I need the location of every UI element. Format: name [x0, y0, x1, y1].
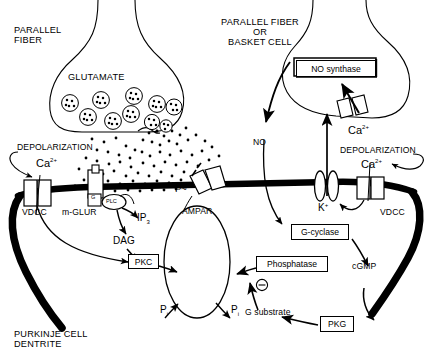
label-glutamate: GLUTAMATE [68, 73, 125, 83]
label-no: NO [253, 138, 266, 147]
pathway-schematic [0, 0, 432, 360]
no-synthase-box[interactable]: NO synthase [296, 60, 376, 77]
label-ca-presynaptic: Ca2+ [348, 124, 369, 137]
label-cgmp: cGMP [352, 262, 376, 271]
arrow-plc-to-ip3 [122, 208, 138, 218]
arrow-depolarization-left [10, 152, 32, 177]
label-purkinje-cell-dendrite: PURKINJE CELL DENTRITE [14, 330, 88, 350]
label-plc: PLC [106, 198, 117, 204]
arrow-depolarization-right [392, 154, 423, 169]
label-vdcc-right: VDCC [380, 208, 405, 217]
ampar-receptor [190, 163, 226, 194]
arrow-pkc-to-ampar [159, 266, 177, 272]
label-pi-left: Pi [160, 305, 168, 317]
phosphatase-box[interactable]: Phosphatase [256, 256, 328, 272]
label-mglur: m-GLUR [62, 208, 97, 217]
ampar-body-ellipse [164, 206, 230, 318]
diagram-canvas: PARALLEL FIBER GLUTAMATE PARALLEL FIBER … [0, 0, 432, 360]
arrow-phosphatase-to-ampar [237, 268, 256, 274]
label-ca-left: Ca2+ [36, 157, 57, 170]
label-pi-right: Pi [231, 305, 239, 317]
label-g-protein: G [91, 194, 95, 200]
label-ampar: AMPAR [182, 207, 212, 216]
pkg-box[interactable]: PKG [320, 316, 354, 332]
label-ca-right: Ca2+ [361, 158, 382, 171]
label-parallel-fiber-left: PARALLEL FIBER [14, 26, 61, 46]
label-depolarization-right: DEPOLARIZATION [340, 146, 416, 155]
synaptic-vesicles [62, 88, 182, 133]
label-p-tilde: P~ [175, 184, 187, 194]
label-depolarization-left: DEPOLARIZATION [17, 143, 93, 152]
arrow-ampar-to-pi-right [216, 303, 230, 318]
arrow-ca-to-kchannel [340, 200, 364, 210]
label-ip3: IP3 [137, 213, 150, 225]
arrow-pkg-to-gsubstrate [282, 317, 318, 325]
arrow-plc-to-dag [117, 210, 126, 234]
label-dag: DAG [113, 236, 135, 247]
g-cyclase-box[interactable]: G-cyclase [291, 224, 349, 240]
label-parallel-fiber-or-basket-cell: PARALLEL FIBER OR BASKET CELL [197, 18, 323, 48]
presynaptic-ca-channel [337, 95, 368, 118]
label-vdcc-left: VDCC [22, 208, 47, 217]
label-k-plus: K+ [318, 202, 328, 214]
pkc-box[interactable]: PKC [128, 254, 159, 269]
label-g-substrate: G substrate [245, 308, 291, 317]
